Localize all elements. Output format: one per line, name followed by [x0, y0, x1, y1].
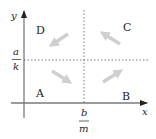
- fraction-k-denominator: k: [13, 61, 19, 72]
- flow-arrow-c-icon: [104, 34, 120, 44]
- flow-arrow-d-icon: [53, 34, 68, 44]
- region-label-b: B: [122, 90, 130, 103]
- phase-plane-diagram: y x a k b m D C A B: [0, 0, 156, 139]
- region-label-d: D: [36, 24, 45, 37]
- x-axis-label: x: [142, 106, 148, 117]
- region-label-a: A: [35, 87, 45, 100]
- y-axis-label: y: [10, 10, 17, 21]
- region-label-c: C: [123, 21, 131, 34]
- flow-arrow-b-icon: [103, 72, 119, 82]
- flow-arrow-a-icon: [52, 71, 68, 81]
- fraction-m-denominator: m: [79, 123, 88, 134]
- fraction-b-numerator: b: [81, 107, 87, 118]
- fraction-a-numerator: a: [13, 46, 19, 57]
